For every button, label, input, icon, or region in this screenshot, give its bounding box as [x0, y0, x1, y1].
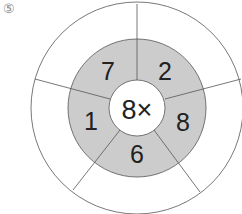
ring-number-left: 1 — [84, 107, 98, 135]
multiplication-wheel: 8× 7 2 8 6 1 — [0, 0, 242, 214]
ring-number-bottom: 6 — [130, 140, 144, 168]
ring-number-top-left: 7 — [101, 57, 115, 85]
ring-number-top-right: 2 — [158, 57, 172, 85]
ring-number-right: 8 — [176, 108, 190, 136]
center-text: 8× — [122, 95, 153, 125]
